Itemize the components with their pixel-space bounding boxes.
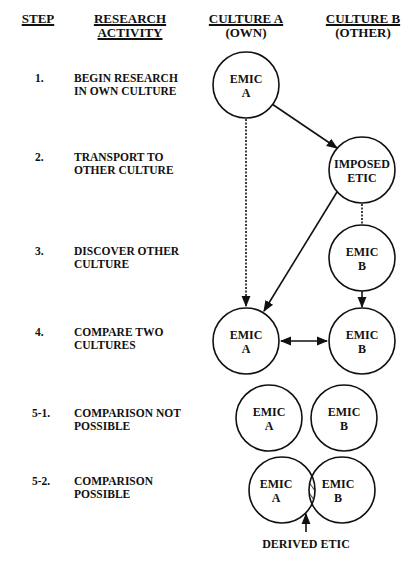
step-number: 5-1.	[32, 407, 50, 419]
step-row-5-1: 5-1. COMPARISON NOT POSSIBLE	[32, 407, 181, 432]
step-number: 4.	[35, 326, 44, 338]
step-number: 1.	[35, 72, 44, 84]
node-emic-a-step1: EMIC A	[213, 52, 279, 118]
svg-text:A: A	[265, 419, 274, 433]
svg-text:B: B	[358, 342, 366, 356]
svg-text:EMIC: EMIC	[230, 328, 263, 342]
step-activity-line1: TRANSPORT TO	[74, 151, 163, 163]
node-emic-b-step3: EMIC B	[329, 225, 395, 291]
step-activity-line2: CULTURE	[74, 258, 130, 270]
step-activity-line1: COMPARISON	[74, 475, 154, 487]
node-emic-a-step4: EMIC A	[213, 308, 279, 374]
svg-text:EMIC: EMIC	[260, 477, 293, 491]
step-number: 5-2.	[32, 475, 50, 487]
svg-text:B: B	[340, 419, 348, 433]
step-number: 3.	[35, 245, 44, 257]
svg-text:EMIC: EMIC	[346, 328, 379, 342]
step-activity-line2: IN OWN CULTURE	[74, 85, 177, 97]
step-row-2: 2. TRANSPORT TO OTHER CULTURE	[35, 151, 174, 176]
step-activity-line1: COMPARE TWO	[74, 326, 163, 338]
step-activity-line2: POSSIBLE	[74, 420, 131, 432]
svg-text:A: A	[242, 86, 251, 100]
svg-text:EMIC: EMIC	[322, 477, 355, 491]
arrow-emic-a-to-imposed-etic	[272, 104, 337, 148]
arrow-imposed-etic-to-emic-a	[264, 192, 337, 311]
emic-etic-diagram: 1. BEGIN RESEARCH IN OWN CULTURE 2. TRAN…	[0, 0, 411, 562]
node-emic-a-step5-1: EMIC A	[236, 385, 302, 451]
svg-text:B: B	[334, 491, 342, 505]
step-activity-line2: POSSIBLE	[74, 488, 131, 500]
step-activity-line2: CULTURES	[74, 339, 136, 351]
svg-text:ETIC: ETIC	[347, 171, 376, 185]
derived-etic-label: DERIVED ETIC	[262, 537, 350, 551]
node-emic-b-step4: EMIC B	[329, 308, 395, 374]
node-emic-b-step5-1: EMIC B	[311, 385, 377, 451]
step-activity-line1: DISCOVER OTHER	[74, 245, 180, 257]
svg-text:EMIC: EMIC	[253, 405, 286, 419]
step-row-1: 1. BEGIN RESEARCH IN OWN CULTURE	[35, 72, 178, 97]
svg-text:B: B	[358, 259, 366, 273]
step-number: 2.	[35, 151, 44, 163]
step-row-3: 3. DISCOVER OTHER CULTURE	[35, 245, 180, 270]
svg-text:A: A	[242, 342, 251, 356]
svg-text:EMIC: EMIC	[328, 405, 361, 419]
venn-step5-2: EMIC A EMIC B	[249, 457, 375, 523]
svg-text:EMIC: EMIC	[346, 245, 379, 259]
step-row-5-2: 5-2. COMPARISON POSSIBLE	[32, 475, 154, 500]
step-activity-line1: COMPARISON NOT	[74, 407, 181, 419]
svg-text:A: A	[272, 491, 281, 505]
svg-text:IMPOSED: IMPOSED	[334, 157, 390, 171]
step-activity-line1: BEGIN RESEARCH	[74, 72, 178, 84]
step-row-4: 4. COMPARE TWO CULTURES	[35, 326, 163, 351]
svg-text:EMIC: EMIC	[230, 72, 263, 86]
node-imposed-etic: IMPOSED ETIC	[329, 137, 395, 203]
step-activity-line2: OTHER CULTURE	[74, 164, 174, 176]
